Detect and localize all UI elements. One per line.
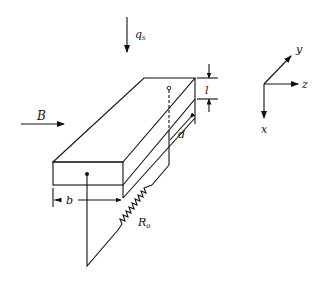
probe-line [167, 86, 171, 165]
axis-x-label: x [261, 123, 268, 136]
depth-label: d [178, 128, 185, 141]
thickness-label: l [205, 84, 209, 97]
magnetic-field-label: B [36, 109, 46, 123]
heat-flux-label: qs [135, 28, 146, 42]
coordinate-axes [264, 56, 298, 118]
axis-z-label: z [301, 78, 308, 91]
slab-block [53, 78, 195, 198]
resistor-label: Ro [137, 216, 151, 230]
axis-y-label: y [295, 43, 303, 56]
width-label: b [66, 194, 73, 207]
diagram-canvas: qs B l d b [0, 0, 323, 282]
